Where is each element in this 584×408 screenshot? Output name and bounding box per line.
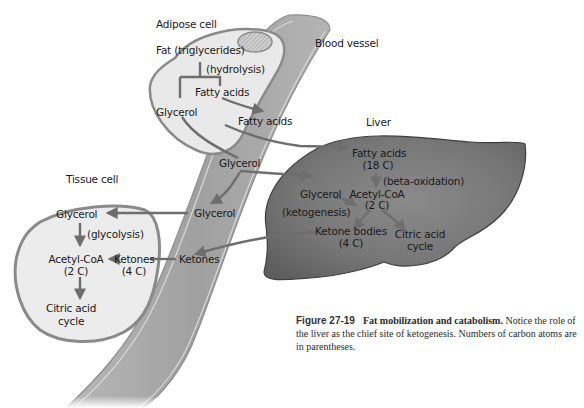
blood-glycerol-upper-label: Glycerol: [219, 157, 260, 169]
ketone-bodies-label: Ketone bodies: [314, 225, 388, 237]
glycolysis-label: (glycolysis): [87, 228, 144, 240]
blood-ketones-label: Ketones: [179, 253, 220, 265]
tissue-citric-acid-cycle-label: cycle: [58, 315, 84, 327]
tissue-ketones-carbons: (4 C): [114, 265, 154, 277]
blood-vessel-label: Blood vessel: [315, 37, 379, 49]
hydrolysis-label: (hydrolysis): [206, 63, 265, 75]
tissue-acetyl-coa-label: Acetyl-CoA: [44, 253, 108, 265]
liver-glycerol-label: Glycerol: [300, 188, 341, 200]
ketone-bodies-carbons: (4 C): [314, 237, 388, 249]
tissue-ketones-label: Ketones: [114, 253, 154, 265]
figure-title: Fat mobilization and catabolism.: [363, 315, 503, 326]
liver-fatty-acids-carbons: (18 C): [352, 159, 404, 171]
liver-citric-acid-label: Citric acid: [392, 228, 448, 240]
figure-number: Figure 27-19: [296, 315, 355, 326]
beta-oxidation-label: (beta-oxidation): [383, 175, 464, 187]
liver-label: Liver: [366, 116, 391, 128]
tissue-acetyl-coa-carbons: (2 C): [44, 265, 108, 277]
liver-acetyl-coa-carbons: (2 C): [346, 199, 408, 211]
adipose-fatty-acids-label: Fatty acids: [195, 86, 249, 98]
adipose-cell-label: Adipose cell: [156, 18, 217, 30]
liver-fatty-acids-label: Fatty acids: [352, 147, 404, 159]
liver-citric-acid-cycle-label: cycle: [392, 240, 448, 252]
blood-fatty-acids-label: Fatty acids: [238, 115, 292, 127]
ketogenesis-label: (ketogenesis): [282, 206, 350, 218]
tissue-citric-acid-label: Citric acid: [46, 302, 96, 314]
tissue-glycerol-label: Glycerol: [56, 208, 97, 220]
tissue-cell-label: Tissue cell: [66, 173, 118, 185]
adipose-glycerol-label: Glycerol: [156, 106, 197, 118]
figure-caption: Figure 27-19Fat mobilization and catabol…: [296, 314, 580, 353]
blood-glycerol-lower-label: Glycerol: [194, 207, 235, 219]
fat-mobilization-diagram: Adipose cell Blood vessel Liver Tissue c…: [0, 0, 584, 408]
fat-triglycerides-label: Fat (triglycerides): [156, 44, 245, 56]
